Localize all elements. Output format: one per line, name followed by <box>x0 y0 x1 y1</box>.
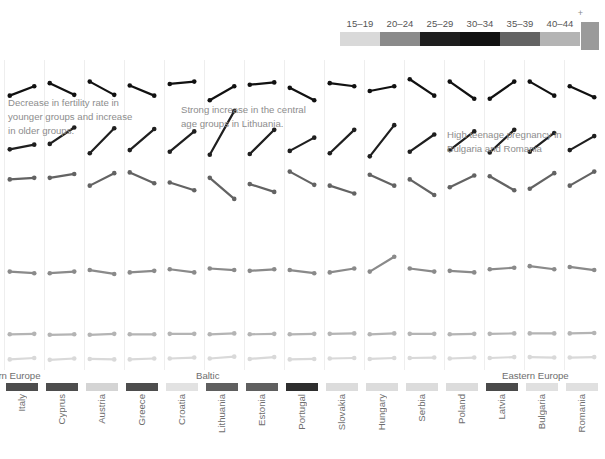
country-bar-lithuania[interactable] <box>206 383 238 391</box>
country-bar-romania[interactable] <box>566 383 598 391</box>
slope-line <box>410 79 434 95</box>
slope-point <box>207 153 212 158</box>
country-bar-estonia[interactable] <box>246 383 278 391</box>
slope-line <box>290 138 314 151</box>
slope-line <box>170 82 194 84</box>
country-bar-hungary[interactable] <box>366 383 398 391</box>
slope-point <box>232 268 237 273</box>
slope-point <box>592 169 597 174</box>
slope-point <box>312 135 317 140</box>
country-label-poland[interactable]: Poland <box>456 394 467 424</box>
country-bar-serbia[interactable] <box>406 383 438 391</box>
slope-point <box>592 268 597 273</box>
country-bar-croatia[interactable] <box>166 383 198 391</box>
country-bar-slovakia[interactable] <box>326 383 358 391</box>
country-cell-hungary[interactable] <box>364 60 400 370</box>
legend-label-3: 30–34 <box>460 18 500 29</box>
country-label-portugal[interactable]: Portugal <box>296 394 307 430</box>
slope-line <box>250 82 274 84</box>
slope-line <box>90 173 114 185</box>
country-label-lithuania[interactable]: Lithuania <box>216 394 227 433</box>
slope-point <box>392 183 397 188</box>
country-cell-poland[interactable] <box>444 60 480 370</box>
country-cell-latvia[interactable] <box>484 60 520 370</box>
legend-swatch-3[interactable] <box>460 32 500 46</box>
annotation-teenage: High teenage pregnancy in Bulgaria and R… <box>447 128 605 156</box>
slope-point <box>367 89 372 94</box>
legend-swatch-4[interactable] <box>500 32 540 46</box>
country-bar-italy[interactable] <box>6 383 38 391</box>
slope-point <box>287 332 292 337</box>
slope-line <box>570 172 594 186</box>
country-label-romania[interactable]: Romania <box>576 394 587 432</box>
slope-point <box>47 81 52 86</box>
slope-line <box>570 267 594 270</box>
slope-point <box>32 271 37 276</box>
slope-point <box>327 151 332 156</box>
slope-point <box>487 96 492 101</box>
country-bar-austria[interactable] <box>86 383 118 391</box>
slope-line <box>490 268 514 270</box>
slope-point <box>312 271 317 276</box>
slope-point <box>567 265 572 270</box>
slope-point <box>432 132 437 137</box>
slope-line <box>250 269 274 271</box>
slope-point <box>112 332 117 337</box>
country-bar-bulgaria[interactable] <box>526 383 558 391</box>
legend-swatch-2[interactable] <box>420 32 460 46</box>
slope-point <box>207 176 212 181</box>
slope-point <box>167 180 172 185</box>
slope-point <box>167 149 172 154</box>
slope-point <box>567 331 572 336</box>
slope-point <box>352 191 357 196</box>
region-label-1: Baltic <box>196 370 219 381</box>
slope-point <box>367 269 372 274</box>
country-cell-bulgaria[interactable] <box>524 60 560 370</box>
country-bar-latvia[interactable] <box>486 383 518 391</box>
slope-point <box>567 84 572 89</box>
slope-point <box>407 149 412 154</box>
country-label-bulgaria[interactable]: Bulgaria <box>536 394 547 429</box>
slope-point <box>432 355 437 360</box>
slope-point <box>7 332 12 337</box>
country-label-serbia[interactable]: Serbia <box>416 394 427 422</box>
slope-point <box>352 84 357 89</box>
slope-line <box>450 358 474 359</box>
country-label-slovakia[interactable]: Slovakia <box>336 394 347 430</box>
slope-line <box>210 86 234 100</box>
country-label-greece[interactable]: Greece <box>136 394 147 425</box>
country-label-croatia[interactable]: Croatia <box>176 394 187 425</box>
slope-point <box>87 357 92 362</box>
country-label-cyprus[interactable]: Cyprus <box>56 394 67 424</box>
slope-line <box>10 86 34 95</box>
slope-point <box>47 271 52 276</box>
slope-point <box>87 79 92 84</box>
slope-line <box>290 172 314 185</box>
slope-point <box>287 169 292 174</box>
country-bar-portugal[interactable] <box>286 383 318 391</box>
country-label-austria[interactable]: Austria <box>96 394 107 424</box>
slope-point <box>432 269 437 274</box>
country-bar-cyprus[interactable] <box>46 383 78 391</box>
slope-line <box>90 82 114 95</box>
slope-line <box>370 125 394 156</box>
legend-swatch-0[interactable] <box>340 32 380 46</box>
legend-swatch-5[interactable] <box>540 32 580 46</box>
legend-swatch-1[interactable] <box>380 32 420 46</box>
country-bar-poland[interactable] <box>446 383 478 391</box>
slope-point <box>207 356 212 361</box>
slope-point <box>247 82 252 87</box>
country-cell-serbia[interactable] <box>404 60 440 370</box>
country-label-latvia[interactable]: Latvia <box>496 394 507 420</box>
country-label-hungary[interactable]: Hungary <box>376 394 387 430</box>
slope-point <box>432 332 437 337</box>
country-cell-romania[interactable] <box>564 60 600 370</box>
slope-line <box>10 272 34 274</box>
slope-point <box>72 332 77 337</box>
slope-point <box>167 267 172 272</box>
country-label-estonia[interactable]: Estonia <box>256 394 267 426</box>
slope-line <box>330 83 354 86</box>
country-bar-greece[interactable] <box>126 383 158 391</box>
slope-point <box>287 149 292 154</box>
country-label-italy[interactable]: Italy <box>16 394 27 412</box>
